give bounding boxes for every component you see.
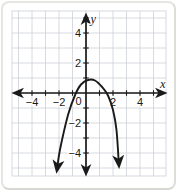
figure-card: −4−22442−2−40xy [0, 0, 177, 191]
y-axis-label: y [89, 12, 97, 26]
y-tick-label: −2 [68, 117, 81, 129]
axes [15, 16, 164, 173]
y-tick-label: −4 [68, 147, 81, 159]
x-tick-label: −2 [53, 96, 66, 108]
y-tick-label: 2 [75, 57, 81, 69]
x-tick-label: 4 [137, 96, 143, 108]
y-tick-label: 4 [75, 27, 81, 39]
coordinate-graph: −4−22442−2−40xy [0, 0, 177, 191]
x-tick-label: −4 [26, 96, 39, 108]
x-axis-label: x [159, 77, 166, 91]
origin-label: 0 [75, 95, 81, 107]
